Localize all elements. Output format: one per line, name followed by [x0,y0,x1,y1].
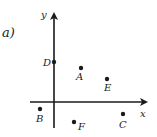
x-axis-label: x [140,108,146,119]
point-b [38,107,42,111]
point-e-label: E [103,82,112,93]
coordinate-diagram: a) y x D A E B F C [0,0,157,137]
point-d-label: D [42,57,51,68]
point-f-label: F [77,121,86,132]
y-axis-label: y [40,9,47,20]
point-d [52,60,56,64]
part-label: a) [2,25,15,40]
point-f [72,120,76,124]
point-a-label: A [75,71,83,82]
point-b-label: B [35,113,43,124]
point-c-label: C [119,119,127,130]
point-c [121,112,125,116]
point-e [105,77,109,81]
point-a [79,66,83,70]
